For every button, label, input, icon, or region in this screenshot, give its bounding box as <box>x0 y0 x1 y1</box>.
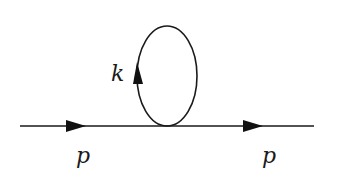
outgoing-momentum-label: p <box>262 145 276 167</box>
outgoing-arrow-icon <box>243 120 263 132</box>
loop-momentum-label: k <box>111 63 124 85</box>
feynman-diagram <box>0 0 343 183</box>
incoming-momentum-label: p <box>76 145 90 167</box>
tadpole-loop <box>137 26 197 126</box>
incoming-arrow-icon <box>66 120 86 132</box>
